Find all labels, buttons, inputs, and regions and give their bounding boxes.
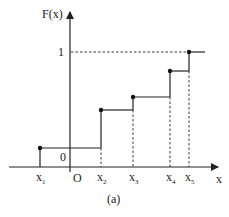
jump-points (38, 50, 191, 150)
x-tick-x2: x2 (97, 170, 107, 186)
origin-label: O (73, 171, 82, 185)
point-x1 (38, 146, 42, 150)
y-tick-one: 1 (58, 45, 64, 59)
figure-caption: (a) (107, 192, 120, 206)
point-x2 (99, 108, 103, 112)
point-x3 (131, 95, 135, 99)
x-axis-label: x (216, 172, 222, 186)
point-x5 (187, 50, 191, 54)
x-tick-x1: x1 (36, 170, 46, 186)
x-tick-x5: x5 (185, 170, 195, 186)
point-x4 (168, 69, 172, 73)
x-tick-x4: x4 (166, 170, 176, 186)
y-tick-zero: 0 (60, 150, 66, 164)
cdf-step-diagram: F(x) 1 0 O x x1 x2 x3 x4 x5 (a) (0, 0, 229, 217)
y-axis-label: F(x) (42, 7, 63, 21)
x-tick-x3: x3 (129, 170, 139, 186)
x-tick-labels: x1 x2 x3 x4 x5 (36, 170, 195, 186)
